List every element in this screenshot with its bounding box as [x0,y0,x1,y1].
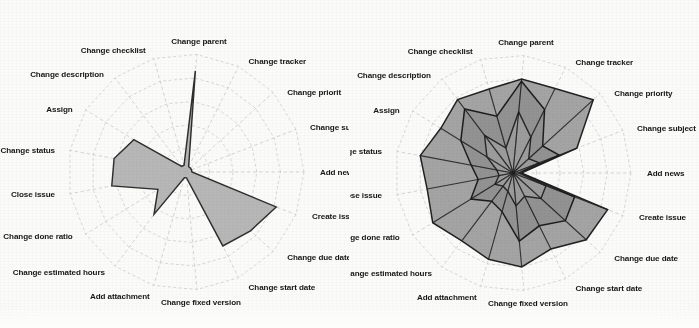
axis-label: Add new [320,168,349,177]
axis-label: Change parent [498,38,554,47]
axis-label: Change fixed version [161,298,241,307]
axis-label: Change priorit [287,88,341,97]
axis-label: Create issue [639,213,687,222]
axis-label: Add attachment [90,292,150,301]
axis-label: Change description [30,70,104,79]
axis-label: Change checklist [408,47,473,56]
right-series-group [420,79,607,267]
axis-label: Change priority [614,89,673,98]
axis-label: Change tracker [249,57,307,66]
axis-label: Change tracker [576,58,634,67]
axis-label: Add attachment [417,293,477,302]
series-polygon [112,71,276,246]
axis-label: Change done ratio [350,233,400,242]
axis-label: Change estimated hours [13,268,106,277]
axis-label: Change start date [576,284,643,293]
axis-label: Assign [46,105,73,114]
axis-label: Change status [1,146,56,155]
left-radar-svg: Add newChange subjectChange prioritChang… [0,0,349,328]
axis-label: Assign [373,106,400,115]
axis-label: Change subject [310,123,349,132]
axis-label: Change due date [614,254,678,263]
axis-label: Change parent [171,37,227,46]
axis-label: Close issue [11,190,55,199]
axis-label: Change status [350,147,383,156]
grid-spoke [186,93,273,173]
left-series-group [112,71,276,246]
left-radar-panel: Add newChange subjectChange prioritChang… [0,0,349,328]
axis-label: Change estimated hours [350,269,432,278]
axis-label: Change done ratio [3,232,73,241]
right-radar-svg: Add newsChange subjectChange priorityCha… [350,0,699,328]
axis-label: Change subject [637,124,696,133]
right-radar-panel: Add newsChange subjectChange priorityCha… [350,0,699,328]
axis-label: Create issue [312,212,349,221]
axis-label: Change description [357,71,431,80]
radar-chart-figure: Add newChange subjectChange prioritChang… [0,0,699,328]
axis-label: Change due date [287,253,349,262]
axis-label: Add news [647,169,685,178]
axis-label: Change start date [249,283,316,292]
axis-label: Change checklist [81,46,146,55]
axis-label: Change fixed version [488,299,568,308]
axis-label: Close issue [350,191,383,200]
